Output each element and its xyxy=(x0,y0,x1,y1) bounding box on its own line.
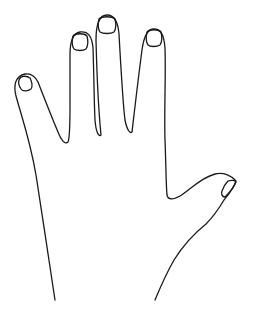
index-finger-nail xyxy=(146,30,161,47)
ring-finger-nail xyxy=(72,34,87,51)
hand-line-art xyxy=(0,0,256,315)
hand-outline xyxy=(15,15,236,300)
middle-finger-nail xyxy=(98,17,115,34)
hand-drawing-canvas xyxy=(0,0,256,315)
pinky-nail xyxy=(19,76,32,91)
